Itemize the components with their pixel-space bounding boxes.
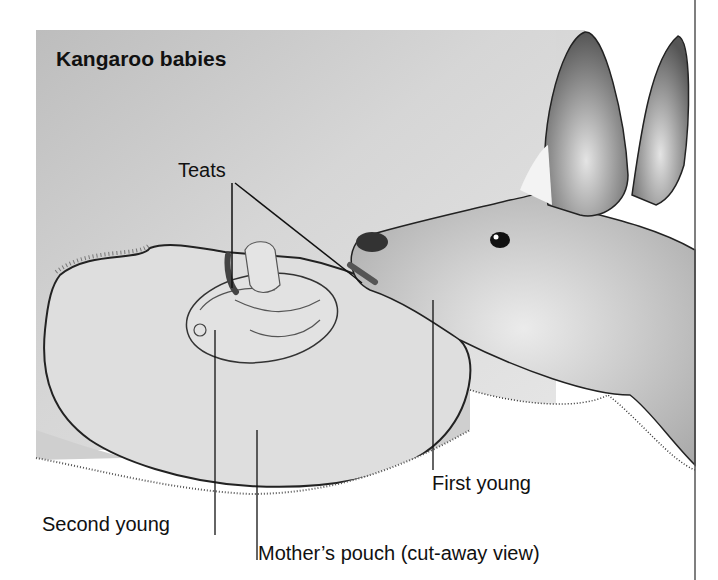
label-teats: Teats [178, 160, 226, 180]
kangaroo-ear-back [632, 36, 689, 205]
label-second-young: Second young [42, 514, 170, 534]
figure-title: Kangaroo babies [56, 48, 226, 69]
label-mothers-pouch: Mother’s pouch (cut-away view) [258, 543, 540, 563]
kangaroo-eye [490, 232, 510, 248]
label-first-young: First young [432, 473, 531, 493]
kangaroo-illustration [0, 0, 718, 580]
